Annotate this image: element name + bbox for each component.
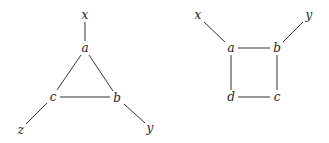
edge-a-b (89, 55, 113, 91)
node-x: x (82, 8, 89, 22)
triangle-graph: xacbzy (17, 8, 154, 137)
node-y: y (146, 121, 154, 135)
node-c: c (274, 90, 281, 104)
edge-c-z (26, 103, 47, 124)
node-y: y (305, 8, 313, 22)
node-x: x (195, 8, 202, 22)
node-z: z (17, 123, 25, 137)
square-graph: xyabdc (195, 8, 313, 104)
node-a: a (81, 41, 88, 55)
node-d: d (227, 90, 235, 104)
graph-diagrams: xacbzyxyabdc (0, 0, 329, 143)
edge-x-a (204, 22, 225, 42)
edge-y-b (283, 22, 303, 42)
edge-b-y (124, 104, 145, 123)
node-b: b (273, 41, 281, 55)
node-b: b (113, 91, 121, 105)
edge-a-c (57, 55, 81, 90)
node-c: c (50, 90, 57, 104)
node-a: a (227, 41, 234, 55)
